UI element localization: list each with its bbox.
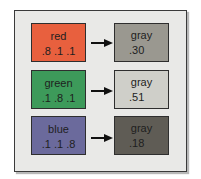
green-color-box: green .1 .8 .1 [31, 70, 86, 109]
color-name: red [32, 30, 85, 43]
right-arrow-icon [91, 87, 113, 95]
rgb-values: .1 .8 .1 [32, 92, 85, 105]
color-name: blue [32, 123, 85, 136]
gray-result-box: gray .30 [114, 23, 169, 62]
gray-label: gray [115, 122, 168, 135]
blue-color-box: blue .1 .1 .8 [31, 116, 86, 155]
gray-value: .30 [115, 44, 168, 57]
gray-value: .18 [115, 137, 168, 150]
right-arrow-icon [91, 39, 113, 47]
rgb-values: .8 .1 .1 [32, 45, 85, 58]
diagram-frame: red .8 .1 .1 gray .30 green .1 .8 .1 gra… [14, 10, 187, 172]
gray-result-box: gray .51 [114, 70, 169, 109]
red-color-box: red .8 .1 .1 [31, 23, 86, 62]
gray-result-box: gray .18 [114, 116, 169, 155]
rgb-values: .1 .1 .8 [32, 138, 85, 151]
color-name: green [32, 77, 85, 90]
right-arrow-icon [91, 134, 113, 142]
gray-label: gray [115, 29, 168, 42]
gray-label: gray [115, 76, 168, 89]
gray-value: .51 [115, 91, 168, 104]
